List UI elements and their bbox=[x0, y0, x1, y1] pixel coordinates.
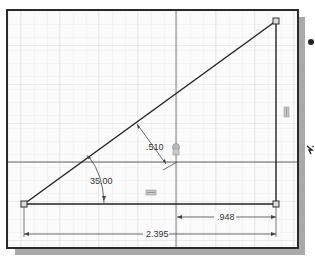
vertical-constraint-icon[interactable] bbox=[284, 107, 289, 117]
short-horizontal-value: .948 bbox=[217, 212, 235, 222]
grid-major bbox=[8, 11, 297, 247]
bullet-icon bbox=[308, 39, 314, 45]
angle-value: 35.00 bbox=[90, 176, 113, 186]
offset-value: .510 bbox=[146, 142, 164, 152]
endpoint-top[interactable] bbox=[273, 18, 279, 24]
horizontal-constraint-icon[interactable] bbox=[146, 190, 156, 195]
coincident-constraint-icon[interactable] bbox=[173, 144, 180, 156]
sketch-canvas[interactable]: 35.00 .510 .948 2.395 bbox=[6, 9, 299, 249]
cursor-icon bbox=[306, 145, 315, 155]
long-horizontal-value: 2.395 bbox=[146, 229, 169, 239]
sketch-drawing: 35.00 .510 .948 2.395 bbox=[8, 11, 297, 247]
endpoint-bottom-left[interactable] bbox=[21, 201, 27, 207]
